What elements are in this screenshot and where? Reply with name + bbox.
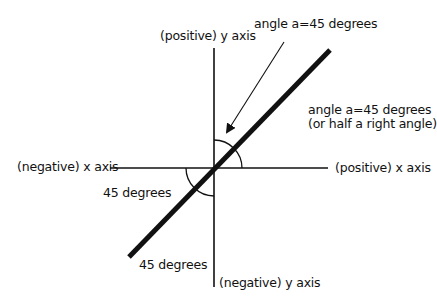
label-angle-right-line1: angle a=45 degrees	[308, 103, 431, 117]
label-negative-y-axis: (negative) y axis	[219, 276, 320, 290]
label-angle-pointer: angle a=45 degrees	[254, 17, 377, 31]
diagonal-line	[129, 50, 330, 257]
pointer-arrow	[227, 42, 284, 132]
label-45-degrees-lower: 45 degrees	[139, 258, 207, 272]
label-positive-x-axis: (positive) x axis	[335, 161, 431, 175]
label-45-degrees-upper: 45 degrees	[103, 186, 171, 200]
label-angle-right-line2: (or half a right angle)	[308, 117, 437, 131]
label-negative-x-axis: (negative) x axis	[17, 160, 118, 174]
label-positive-y-axis: (positive) y axis	[160, 29, 256, 43]
